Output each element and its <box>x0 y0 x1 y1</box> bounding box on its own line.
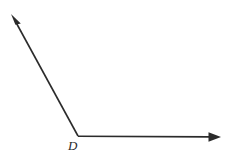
arrowhead-upper-left-icon <box>11 14 21 25</box>
vertex-label-d: D <box>68 139 77 152</box>
angle-figure-svg <box>0 0 227 161</box>
ray-upper-left <box>16 22 79 137</box>
angle-diagram: D <box>0 0 227 161</box>
ray-horizontal-right <box>78 136 210 137</box>
arrowhead-right-icon <box>209 132 222 142</box>
